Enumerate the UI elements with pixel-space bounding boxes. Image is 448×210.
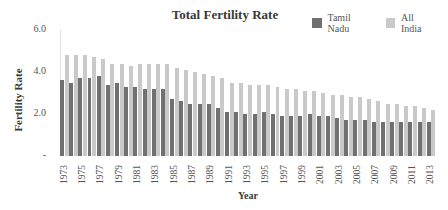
bar-all-india-2013 bbox=[431, 110, 435, 156]
bar-all-india-1996 bbox=[276, 87, 280, 156]
bar-tamil-nadu-1999 bbox=[298, 116, 302, 156]
bar-tamil-nadu-1980 bbox=[124, 87, 128, 156]
bar-all-india-2001 bbox=[321, 93, 325, 156]
x-tick-label: 1995 bbox=[260, 165, 270, 184]
bar-all-india-1991 bbox=[230, 83, 234, 157]
bar-all-india-1989 bbox=[211, 76, 215, 156]
y-tick-label: 2.0 bbox=[4, 107, 46, 118]
bar-tamil-nadu-1973 bbox=[60, 80, 64, 156]
bar-all-india-2007 bbox=[376, 101, 380, 156]
bar-all-india-2008 bbox=[386, 104, 390, 157]
bar-all-india-1990 bbox=[220, 78, 224, 156]
x-tick-label: 2007 bbox=[370, 165, 380, 184]
x-tick-label: 1991 bbox=[224, 165, 234, 184]
x-axis-label: Year bbox=[228, 190, 268, 201]
x-tick-label: 2009 bbox=[389, 165, 399, 184]
bar-all-india-1977 bbox=[101, 59, 105, 156]
bar-tamil-nadu-1976 bbox=[88, 78, 92, 156]
x-tick-label: 1985 bbox=[169, 165, 179, 184]
bar-tamil-nadu-1986 bbox=[179, 101, 183, 156]
x-tick-label: 1981 bbox=[132, 165, 142, 184]
bar-tamil-nadu-2005 bbox=[353, 120, 357, 156]
bar-tamil-nadu-2004 bbox=[344, 120, 348, 156]
bar-all-india-1994 bbox=[257, 85, 261, 156]
bar-tamil-nadu-1984 bbox=[161, 89, 165, 156]
bar-tamil-nadu-1981 bbox=[133, 87, 137, 156]
x-tick-label: 2001 bbox=[315, 165, 325, 184]
bar-all-india-1979 bbox=[120, 64, 124, 156]
bar-tamil-nadu-1979 bbox=[115, 83, 119, 157]
x-tick-label: 2013 bbox=[425, 165, 435, 184]
bar-all-india-1992 bbox=[239, 83, 243, 157]
bar-all-india-1986 bbox=[184, 70, 188, 156]
x-tick-label: 2003 bbox=[334, 165, 344, 184]
x-tick-label: 1975 bbox=[77, 165, 87, 184]
bar-tamil-nadu-2010 bbox=[399, 122, 403, 156]
bar-all-india-1998 bbox=[294, 89, 298, 156]
bar-tamil-nadu-1978 bbox=[106, 85, 110, 156]
bar-tamil-nadu-1991 bbox=[225, 112, 229, 156]
bar-tamil-nadu-1987 bbox=[188, 104, 192, 157]
bar-all-india-2012 bbox=[422, 108, 426, 156]
bar-tamil-nadu-2002 bbox=[326, 116, 330, 156]
chart-title: Total Fertility Rate bbox=[150, 7, 300, 23]
bar-all-india-1981 bbox=[138, 64, 142, 156]
bar-all-india-1987 bbox=[193, 72, 197, 156]
bar-tamil-nadu-2008 bbox=[381, 122, 385, 156]
bar-all-india-1982 bbox=[147, 64, 151, 156]
x-tick-label: 1989 bbox=[205, 165, 215, 184]
bar-all-india-2009 bbox=[395, 104, 399, 157]
x-tick-label: 2005 bbox=[352, 165, 362, 184]
bar-all-india-1999 bbox=[303, 91, 307, 156]
bar-tamil-nadu-1975 bbox=[78, 78, 82, 156]
bar-tamil-nadu-2000 bbox=[308, 114, 312, 156]
bar-tamil-nadu-1997 bbox=[280, 116, 284, 156]
bar-all-india-1995 bbox=[266, 85, 270, 156]
bar-tamil-nadu-1989 bbox=[207, 104, 211, 157]
plot-area bbox=[60, 30, 436, 156]
x-tick-label: 1993 bbox=[242, 165, 252, 184]
bar-tamil-nadu-1983 bbox=[152, 89, 156, 156]
y-tick-label: 6.0 bbox=[4, 23, 46, 34]
bar-tamil-nadu-1982 bbox=[143, 89, 147, 156]
bar-all-india-2000 bbox=[312, 91, 316, 156]
bar-tamil-nadu-2012 bbox=[418, 122, 422, 156]
y-tick-label: 4.0 bbox=[4, 65, 46, 76]
bar-tamil-nadu-1992 bbox=[234, 112, 238, 156]
bar-tamil-nadu-1990 bbox=[216, 108, 220, 156]
bar-tamil-nadu-1998 bbox=[289, 116, 293, 156]
bar-all-india-1973 bbox=[65, 55, 69, 156]
bar-all-india-2011 bbox=[413, 106, 417, 156]
bar-all-india-1978 bbox=[110, 64, 114, 156]
bar-all-india-1997 bbox=[285, 89, 289, 156]
bar-tamil-nadu-1996 bbox=[271, 114, 275, 156]
bar-tamil-nadu-2003 bbox=[335, 118, 339, 156]
bar-tamil-nadu-2011 bbox=[408, 122, 412, 156]
bar-all-india-1988 bbox=[202, 74, 206, 156]
legend-swatch-all-india bbox=[386, 18, 395, 28]
bar-all-india-2003 bbox=[340, 95, 344, 156]
bar-all-india-2010 bbox=[404, 106, 408, 156]
legend-swatch-tamil-nadu bbox=[312, 18, 322, 28]
y-tick-label: - bbox=[4, 149, 46, 160]
bar-tamil-nadu-1974 bbox=[69, 83, 73, 157]
bar-tamil-nadu-2007 bbox=[372, 122, 376, 156]
bar-all-india-1980 bbox=[129, 66, 133, 156]
x-tick-label: 1973 bbox=[59, 165, 69, 184]
x-tick-label: 1983 bbox=[150, 165, 160, 184]
bar-all-india-2006 bbox=[367, 99, 371, 156]
bar-all-india-2002 bbox=[331, 95, 335, 156]
bar-tamil-nadu-2001 bbox=[317, 116, 321, 156]
bar-tamil-nadu-2009 bbox=[390, 122, 394, 156]
x-tick-label: 1977 bbox=[95, 165, 105, 184]
bar-all-india-1984 bbox=[165, 64, 169, 156]
bar-tamil-nadu-1977 bbox=[97, 76, 101, 156]
bar-tamil-nadu-1993 bbox=[243, 114, 247, 156]
bar-tamil-nadu-2013 bbox=[427, 122, 431, 156]
x-tick-label: 1979 bbox=[114, 165, 124, 184]
bar-tamil-nadu-1994 bbox=[253, 114, 257, 156]
x-tick-label: 1999 bbox=[297, 165, 307, 184]
bar-all-india-2004 bbox=[349, 97, 353, 156]
bar-tamil-nadu-1988 bbox=[198, 104, 202, 157]
bar-all-india-1993 bbox=[248, 85, 252, 156]
